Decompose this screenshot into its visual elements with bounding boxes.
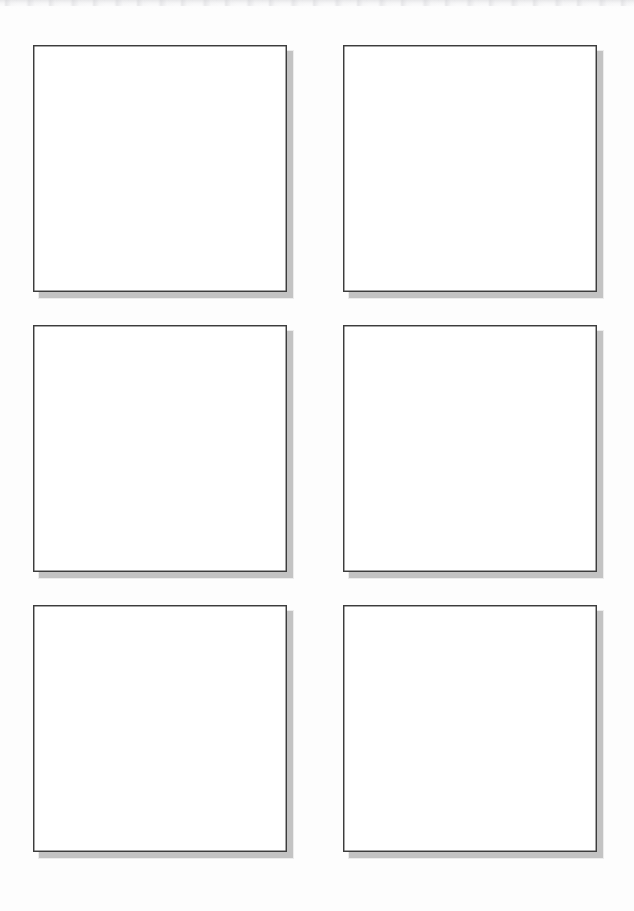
blank-panel[interactable] bbox=[343, 45, 597, 292]
panel-content bbox=[34, 606, 286, 851]
panel-slot-1 bbox=[33, 45, 293, 298]
blank-panel[interactable] bbox=[33, 45, 287, 292]
blank-panel[interactable] bbox=[343, 605, 597, 852]
blank-panel[interactable] bbox=[343, 325, 597, 572]
panel-content bbox=[344, 326, 596, 571]
panel-slot-2 bbox=[343, 45, 603, 298]
panel-grid bbox=[0, 0, 634, 911]
panel-content bbox=[34, 46, 286, 291]
panel-slot-6 bbox=[343, 605, 603, 858]
blank-panel[interactable] bbox=[33, 605, 287, 852]
panel-slot-4 bbox=[343, 325, 603, 578]
panel-content bbox=[344, 46, 596, 291]
panel-content bbox=[344, 606, 596, 851]
panel-content bbox=[34, 326, 286, 571]
panel-slot-5 bbox=[33, 605, 293, 858]
blank-panel[interactable] bbox=[33, 325, 287, 572]
document-page bbox=[0, 0, 634, 911]
panel-slot-3 bbox=[33, 325, 293, 578]
